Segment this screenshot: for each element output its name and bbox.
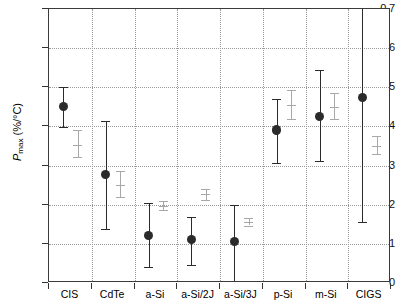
error-bar-cap-lower	[244, 226, 253, 227]
data-point-marker	[59, 102, 68, 111]
data-point-marker	[358, 93, 367, 102]
data-point-marker	[201, 194, 210, 195]
x-axis-tick-label-cigs: CIGS	[334, 288, 400, 300]
error-bar-cap-upper	[272, 99, 281, 100]
gridline-horizontal	[49, 244, 389, 245]
error-bar-cap-upper	[59, 87, 68, 88]
y-axis-label-subscript: max	[16, 139, 25, 154]
gridline-vertical	[177, 9, 178, 281]
error-bar-cap-upper	[330, 93, 339, 94]
error-bar-cap-lower	[272, 163, 281, 164]
plot-area	[48, 8, 390, 282]
y-axis-label-symbol: P	[11, 154, 23, 161]
error-bar-cap-upper	[372, 136, 381, 137]
gridline-horizontal	[49, 205, 389, 206]
data-point-marker	[73, 145, 82, 146]
error-bar-cap-upper	[101, 121, 110, 122]
error-bar-cap-upper	[244, 218, 253, 219]
error-bar	[377, 136, 378, 154]
error-bar-cap-lower	[144, 267, 153, 268]
gridline-vertical	[220, 9, 221, 281]
error-bar-cap-upper	[287, 90, 296, 91]
gridline-vertical	[92, 9, 93, 281]
error-bar-cap-upper	[116, 171, 125, 172]
error-bar	[334, 93, 335, 119]
error-bar-cap-lower	[358, 222, 367, 223]
gridline-vertical	[263, 9, 264, 281]
error-bar-cap-upper	[315, 70, 324, 71]
error-bar-cap-upper	[144, 203, 153, 204]
error-bar-cap-upper	[187, 217, 196, 218]
y-axis-label-units: (%/°C)	[11, 103, 23, 139]
error-bar-cap-lower	[101, 229, 110, 230]
error-bar-cap-lower	[73, 157, 82, 158]
error-bar-cap-upper	[230, 205, 239, 206]
data-point-marker	[287, 105, 296, 106]
gridline-horizontal	[49, 87, 389, 88]
data-point-marker	[144, 231, 153, 240]
error-bar-cap-upper	[201, 189, 210, 190]
data-point-marker	[372, 146, 381, 147]
data-point-marker	[159, 206, 168, 207]
y-axis-label: Pmax (%/°C)	[11, 82, 25, 182]
gridline-vertical	[135, 9, 136, 281]
data-point-marker	[315, 112, 324, 121]
error-bar-cap-lower	[187, 265, 196, 266]
error-bar-cap-lower	[287, 119, 296, 120]
gridline-vertical	[306, 9, 307, 281]
gridline-horizontal	[49, 48, 389, 49]
error-bar-cap-lower	[330, 119, 339, 120]
error-bar-cap-lower	[201, 200, 210, 201]
error-bar-cap-lower	[315, 161, 324, 162]
error-bar-cap-lower	[159, 210, 168, 211]
error-bar-cap-lower	[116, 197, 125, 198]
error-bar-cap-lower	[59, 127, 68, 128]
data-point-marker	[230, 237, 239, 246]
error-bar-cap-upper	[73, 130, 82, 131]
error-bar	[78, 130, 79, 157]
data-point-marker	[272, 125, 281, 134]
error-bar	[362, 9, 363, 222]
gridline-horizontal	[49, 166, 389, 167]
gridline-vertical	[348, 9, 349, 281]
data-point-marker	[116, 185, 125, 186]
data-point-marker	[244, 222, 253, 223]
gridline-horizontal	[49, 126, 389, 127]
data-point-marker	[330, 107, 339, 108]
error-bar-cap-upper	[159, 201, 168, 202]
data-point-marker	[101, 170, 110, 179]
error-bar	[120, 171, 121, 196]
error-bar-cap-lower	[372, 154, 381, 155]
